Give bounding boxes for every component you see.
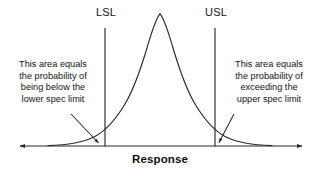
upper-tail-annotation: This area equals the probability of exce… [221,59,317,105]
upper-tail-annotation-line-4: upper spec limit [221,94,317,106]
lower-tail-annotation: This area equals the probability of bein… [5,59,101,105]
lower-tail-annotation-line-1: This area equals [5,59,101,71]
left-annotation-leader-arrow [71,114,99,143]
right-annotation-leader-arrow [219,114,234,143]
spec-limit-distribution-figure: LSL USL This area equals the probability… [0,0,320,177]
usl-label: USL [199,6,233,18]
upper-tail-annotation-line-3: exceeding the [221,82,317,94]
lower-tail-annotation-line-3: being below the [5,82,101,94]
upper-tail-annotation-line-1: This area equals [221,59,317,71]
lower-tail-annotation-line-4: lower spec limit [5,94,101,106]
lower-tail-annotation-line-2: the probability of [5,71,101,83]
upper-tail-annotation-line-2: the probability of [221,71,317,83]
x-axis-title: Response [0,153,320,165]
lsl-label: LSL [89,6,123,18]
